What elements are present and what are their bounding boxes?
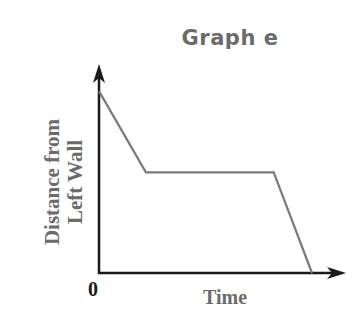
plot-area: [0, 0, 360, 313]
x-axis-label: Time: [180, 286, 270, 309]
origin-label: 0: [88, 278, 98, 301]
data-line: [99, 91, 312, 273]
